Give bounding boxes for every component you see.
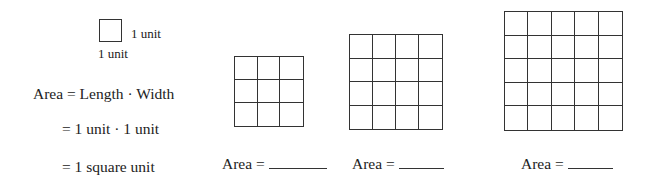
grid-cell [575,106,598,130]
unit-side-label-right: 1 unit [131,26,161,42]
unit-side-label-bottom: 1 unit [98,46,128,62]
grid-cell [599,59,622,83]
grid-cell [258,103,281,126]
grid-cell [419,35,442,59]
grid-cell [235,57,258,80]
grid-cell [552,12,575,36]
grid-cell [258,57,281,80]
grid-cell [528,12,551,36]
grid-cell [575,59,598,83]
grid-4x4 [349,34,443,130]
grid-cell [373,35,396,59]
unit-square [99,19,122,42]
grid-cell [373,106,396,130]
grid-cell [396,59,419,83]
grid-3x3 [234,56,304,127]
grid-cell [419,106,442,130]
grid-cell [350,82,373,106]
grid-cell [396,82,419,106]
grid-cell [552,59,575,83]
grid-cell [505,12,528,36]
area-label: Area = [222,155,265,172]
grid-cell [575,83,598,107]
grid-cell [373,59,396,83]
area-answer-1: Area = [222,154,327,173]
grid-cell [350,106,373,130]
grid-5x5 [504,11,623,131]
grid-cell [528,59,551,83]
answer-blank[interactable] [399,154,444,169]
grid-cell [505,36,528,60]
grid-cell [528,83,551,107]
grid-cell [419,82,442,106]
answer-blank[interactable] [568,154,613,169]
grid-cell [575,36,598,60]
grid-cell [552,106,575,130]
grid-cell [350,59,373,83]
area-answer-3: Area = [521,154,613,173]
grid-cell [599,12,622,36]
grid-cell [599,83,622,107]
grid-cell [505,83,528,107]
grid-cell [528,106,551,130]
grid-cell [235,80,258,103]
area-label: Area = [521,155,564,172]
grid-cell [258,80,281,103]
grid-cell [280,103,303,126]
grid-cell [505,106,528,130]
formula-line-1: Area = Length · Width [33,85,174,103]
grid-cell [599,36,622,60]
formula-line-2: = 1 unit · 1 unit [62,120,159,138]
grid-cell [552,36,575,60]
grid-cell [280,80,303,103]
formula-line-3: = 1 square unit [62,158,155,176]
grid-cell [280,57,303,80]
grid-cell [528,36,551,60]
grid-cell [599,106,622,130]
grid-cell [505,59,528,83]
grid-cell [396,106,419,130]
grid-cell [396,35,419,59]
grid-cell [235,103,258,126]
area-answer-2: Area = [352,154,444,173]
answer-blank[interactable] [269,154,327,169]
grid-cell [419,59,442,83]
grid-cell [552,83,575,107]
grid-cell [373,82,396,106]
grid-cell [575,12,598,36]
grid-cell [350,35,373,59]
area-label: Area = [352,155,395,172]
